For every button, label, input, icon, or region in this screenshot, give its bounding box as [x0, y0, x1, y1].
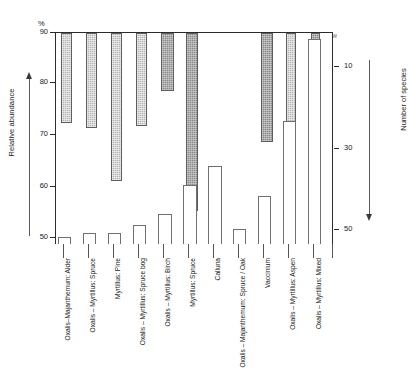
species-bar-10 [283, 121, 296, 244]
abundance-bar-1 [61, 33, 72, 123]
species-bar-4 [133, 225, 146, 244]
abundance-bar-2 [86, 33, 97, 128]
category-text-2: Oxalis – Myrtillus: Spruce [89, 258, 97, 332]
right-axis-tick-50: 50 [344, 225, 352, 233]
category-text-1: Oxalis–Majanthemum: Alder [64, 258, 72, 340]
species-bar-3 [108, 233, 121, 244]
species-bar-6 [183, 185, 197, 245]
category-text-8: Oxalis – Majanthemum: Spruce / Oak [239, 258, 247, 368]
category-text-4: Oxalis – Myrtillus: Spruce bog [139, 258, 147, 345]
category-text-10: Oxalis – Myrtillus: Aspen [289, 258, 297, 330]
bar-group-3 [106, 33, 131, 244]
bar-group-8 [231, 33, 256, 244]
category-label-10: Oxalis – Myrtillus: Aspen [280, 258, 305, 352]
left-axis-tick-90: 90 [20, 28, 48, 36]
right-axis: ≈ 10 30 50 Number of species [334, 0, 398, 300]
species-bar-7 [208, 166, 222, 244]
right-tickmark-50 [334, 229, 339, 230]
bar-group-7 [206, 33, 231, 244]
right-axis-tick-30: 30 [344, 144, 352, 152]
category-label-2: Oxalis – Myrtillus: Spruce [80, 258, 105, 352]
bar-group-1 [56, 33, 81, 244]
species-bar-8 [233, 229, 246, 244]
left-axis: % 90 80 70 60 50 Relative abundance [0, 0, 56, 300]
category-text-11: Oxalis – Myrtillus: Mixed [315, 258, 323, 329]
right-tickmark-30 [334, 148, 339, 149]
species-bar-5 [158, 214, 172, 244]
bar-group-2 [81, 33, 106, 244]
right-axis-label: Number of species [399, 51, 408, 149]
category-label-4: Oxalis – Myrtillus: Spruce bog [130, 258, 155, 352]
abundance-bar-5 [161, 33, 174, 91]
species-bar-2 [83, 233, 96, 244]
abundance-bar-3 [111, 33, 122, 181]
bar-group-10 [281, 33, 306, 244]
left-axis-label: Relative abundance [7, 77, 16, 169]
category-text-9: Vaccinium [264, 258, 272, 288]
category-text-3: Myrtillus: Pine [114, 258, 122, 299]
bar-group-11 [306, 33, 333, 244]
category-label-1: Oxalis–Majanthemum: Alder [55, 258, 80, 352]
category-text-6: Myrtillus: Spruce [189, 258, 197, 307]
category-label-11: Oxalis – Myrtillus: Mixed [305, 258, 332, 352]
abundance-bar-4 [136, 33, 147, 126]
category-label-7: Calluna [205, 258, 230, 352]
chart-plot-area [55, 32, 333, 244]
abundance-bar-9 [261, 33, 273, 142]
left-axis-tick-70: 70 [20, 130, 48, 138]
category-axis-labels: Oxalis–Majanthemum: Alder Oxalis – Myrti… [55, 258, 333, 354]
category-text-5: Oxalis – Myrtillus: Birch [164, 258, 172, 327]
right-axis-tick-10: 10 [344, 62, 352, 70]
category-label-5: Oxalis – Myrtillus: Birch [155, 258, 180, 352]
species-bar-9 [258, 196, 271, 244]
category-label-6: Myrtillus: Spruce [180, 258, 205, 352]
category-label-3: Myrtillus: Pine [105, 258, 130, 352]
category-label-8: Oxalis – Majanthemum: Spruce / Oak [230, 258, 255, 352]
species-bar-1 [58, 237, 71, 244]
axis-break-icon: ≈ [330, 34, 340, 38]
relative-abundance-arrow-icon [29, 78, 30, 236]
species-bar-11 [308, 39, 321, 244]
left-axis-tick-80: 80 [20, 78, 48, 86]
number-of-species-arrow-icon [369, 60, 370, 215]
category-label-9: Vaccinium [255, 258, 280, 352]
left-axis-tick-60: 60 [20, 182, 48, 190]
bar-group-5 [156, 33, 181, 244]
bar-group-4 [131, 33, 156, 244]
right-tickmark-10 [334, 66, 339, 67]
category-tick-end [332, 244, 333, 258]
left-axis-tick-50: 50 [20, 233, 48, 241]
bar-group-6 [181, 33, 206, 244]
category-text-7: Calluna [214, 258, 222, 280]
bar-group-9 [256, 33, 281, 244]
